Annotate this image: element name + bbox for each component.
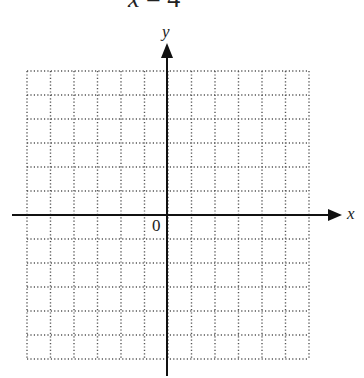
origin-label: 0	[152, 216, 161, 236]
x-axis-arrow-icon	[328, 209, 342, 221]
y-axis-arrow-icon	[161, 43, 173, 58]
coordinate-plane	[0, 0, 364, 378]
x-axis-label: x	[347, 204, 355, 224]
y-axis-label: y	[162, 22, 170, 42]
